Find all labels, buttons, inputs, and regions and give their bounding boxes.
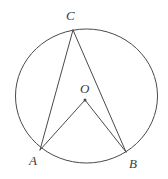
- geometry-figure: C O A B: [0, 0, 168, 179]
- segment-ob: [85, 100, 126, 152]
- point-label-o: O: [80, 82, 89, 95]
- point-o-dot: [84, 99, 87, 102]
- point-label-b: B: [129, 157, 137, 170]
- point-label-c: C: [66, 9, 75, 22]
- circumscribed-circle: [16, 29, 158, 163]
- point-label-a: A: [29, 154, 37, 167]
